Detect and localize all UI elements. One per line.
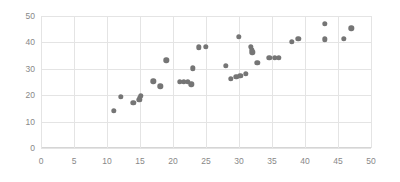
gridline-x-35 bbox=[272, 16, 273, 148]
data-point bbox=[223, 63, 228, 68]
gridline-y-0 bbox=[41, 148, 371, 149]
data-point bbox=[190, 66, 195, 71]
y-tick-label-20: 20 bbox=[26, 91, 35, 100]
y-tick-label-0: 0 bbox=[30, 144, 35, 153]
y-tick-label-30: 30 bbox=[26, 65, 35, 74]
y-axis-tick-labels: 01020304050 bbox=[14, 16, 35, 148]
x-tick-label-40: 40 bbox=[300, 157, 309, 166]
gridline-x-5 bbox=[74, 16, 75, 148]
data-point bbox=[322, 21, 327, 26]
data-point bbox=[249, 49, 254, 54]
data-point bbox=[203, 44, 208, 49]
gridline-x-25 bbox=[206, 16, 207, 148]
x-tick-label-35: 35 bbox=[267, 157, 276, 166]
x-tick-label-0: 0 bbox=[39, 157, 44, 166]
data-point bbox=[189, 81, 194, 86]
gridline-x-10 bbox=[107, 16, 108, 148]
scatter-chart: 01020304050 05101520253035404550 bbox=[0, 0, 400, 182]
x-tick-label-5: 5 bbox=[72, 157, 77, 166]
data-point bbox=[236, 34, 241, 39]
gridline-x-20 bbox=[173, 16, 174, 148]
gridline-x-45 bbox=[338, 16, 339, 148]
gridline-x-15 bbox=[140, 16, 141, 148]
data-point bbox=[158, 84, 163, 89]
gridline-x-50 bbox=[371, 16, 372, 148]
data-point bbox=[150, 79, 155, 84]
x-tick-label-30: 30 bbox=[234, 157, 243, 166]
x-tick-label-25: 25 bbox=[201, 157, 210, 166]
plot-area bbox=[41, 16, 371, 148]
x-tick-label-45: 45 bbox=[333, 157, 342, 166]
data-point bbox=[118, 94, 123, 99]
data-point bbox=[164, 58, 169, 63]
x-tick-label-10: 10 bbox=[102, 157, 111, 166]
y-tick-label-40: 40 bbox=[26, 38, 35, 47]
data-point bbox=[131, 100, 136, 105]
x-tick-label-20: 20 bbox=[168, 157, 177, 166]
data-point bbox=[138, 93, 143, 98]
x-tick-label-50: 50 bbox=[366, 157, 375, 166]
data-point bbox=[111, 108, 116, 113]
data-point bbox=[322, 37, 327, 42]
data-point bbox=[276, 55, 281, 60]
data-point bbox=[289, 39, 294, 44]
data-point bbox=[296, 36, 301, 41]
x-axis-tick-labels: 05101520253035404550 bbox=[41, 157, 371, 169]
x-tick-label-15: 15 bbox=[135, 157, 144, 166]
data-point bbox=[196, 44, 201, 49]
gridline-x-40 bbox=[305, 16, 306, 148]
data-point bbox=[341, 36, 346, 41]
data-point bbox=[255, 60, 260, 65]
data-point bbox=[243, 71, 248, 76]
y-tick-label-50: 50 bbox=[26, 12, 35, 21]
y-tick-label-10: 10 bbox=[26, 117, 35, 126]
data-point bbox=[348, 26, 353, 31]
gridline-x-0 bbox=[41, 16, 42, 148]
